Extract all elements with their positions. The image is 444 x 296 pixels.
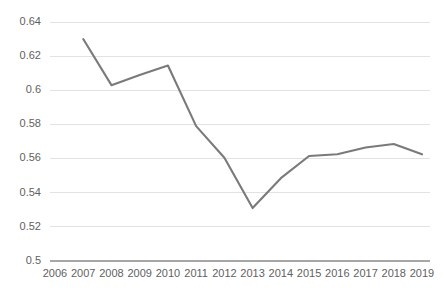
y-tick-label: 0.62 [20, 49, 41, 61]
y-tick-label: 0.56 [20, 151, 41, 163]
y-tick-label: 0.6 [26, 83, 41, 95]
x-tick-label: 2019 [410, 267, 434, 279]
y-gridlines [50, 22, 430, 227]
x-tick-label: 2012 [212, 267, 236, 279]
x-tick-label: 2010 [156, 267, 180, 279]
x-tick-label: 2013 [240, 267, 264, 279]
x-tick-label: 2018 [382, 267, 406, 279]
x-tick-label: 2016 [325, 267, 349, 279]
chart-canvas: 0.50.520.540.560.580.60.620.64 200620072… [0, 0, 444, 296]
y-tick-label: 0.54 [20, 186, 41, 198]
x-axis-tick-labels: 2006200720082009201020112012201320142015… [43, 267, 434, 279]
x-tick-label: 2008 [99, 267, 123, 279]
x-tick-label: 2017 [353, 267, 377, 279]
y-tick-label: 0.64 [20, 15, 41, 27]
y-tick-label: 0.5 [26, 254, 41, 266]
y-tick-label: 0.58 [20, 117, 41, 129]
y-tick-label: 0.52 [20, 220, 41, 232]
x-tick-label: 2014 [269, 267, 293, 279]
x-tick-label: 2007 [71, 267, 95, 279]
line-chart-figure: 0.50.520.540.560.580.60.620.64 200620072… [0, 0, 444, 296]
x-tick-label: 2006 [43, 267, 67, 279]
y-axis-tick-labels: 0.50.520.540.560.580.60.620.64 [20, 15, 41, 266]
x-tick-label: 2009 [127, 267, 151, 279]
data-series-line [83, 39, 422, 208]
x-tick-label: 2015 [297, 267, 321, 279]
x-tick-label: 2011 [184, 267, 208, 279]
